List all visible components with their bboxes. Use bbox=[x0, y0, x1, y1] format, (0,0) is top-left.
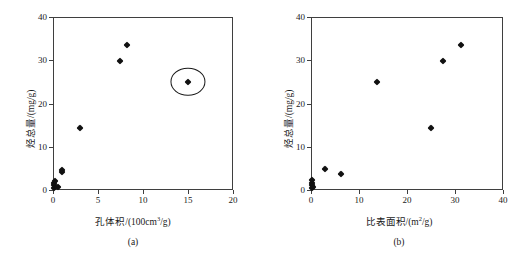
chart-panel-a: 烃总量/(mg/g) 孔体积/(100cm3/g) (a) 0510152001… bbox=[0, 0, 266, 261]
plot-area-b bbox=[311, 17, 503, 190]
y-axis-tick-label: 40 bbox=[281, 12, 305, 22]
x-axis-tick bbox=[143, 190, 144, 194]
x-axis-tick-label: 0 bbox=[309, 195, 314, 205]
x-axis-label-b: 比表面积/(m2/g) bbox=[266, 216, 532, 228]
y-axis-tick bbox=[307, 147, 311, 148]
y-axis-tick bbox=[307, 17, 311, 18]
y-axis-tick-label: 30 bbox=[23, 55, 47, 65]
x-axis-tick-label: 40 bbox=[499, 195, 508, 205]
y-axis-tick-label: 10 bbox=[23, 142, 47, 152]
y-axis-tick-label: 30 bbox=[281, 55, 305, 65]
y-axis-tick bbox=[307, 104, 311, 105]
figure-container: 烃总量/(mg/g) 孔体积/(100cm3/g) (a) 0510152001… bbox=[0, 0, 532, 261]
x-axis-tick bbox=[359, 190, 360, 194]
x-axis-tick bbox=[188, 190, 189, 194]
x-axis-tick bbox=[407, 190, 408, 194]
x-axis-tick-label: 15 bbox=[184, 195, 193, 205]
y-axis-tick-label: 0 bbox=[23, 185, 47, 195]
panel-caption-b: (b) bbox=[266, 236, 532, 248]
y-axis-tick bbox=[49, 104, 53, 105]
y-axis-tick bbox=[307, 60, 311, 61]
x-axis-tick-label: 20 bbox=[403, 195, 412, 205]
x-axis-tick-label: 0 bbox=[51, 195, 56, 205]
y-axis-tick bbox=[49, 60, 53, 61]
chart-panel-b: 烃总量/(mg/g) 比表面积/(m2/g) (b) 0102030400102… bbox=[266, 0, 532, 261]
x-axis-tick-label: 5 bbox=[96, 195, 101, 205]
x-axis-tick-label: 10 bbox=[139, 195, 148, 205]
y-axis-tick bbox=[49, 17, 53, 18]
x-axis-tick bbox=[233, 190, 234, 194]
x-axis-tick-label: 10 bbox=[355, 195, 364, 205]
panel-caption-a: (a) bbox=[0, 236, 266, 248]
x-axis-tick bbox=[98, 190, 99, 194]
x-axis-tick bbox=[455, 190, 456, 194]
x-axis-label-a: 孔体积/(100cm3/g) bbox=[0, 216, 266, 228]
y-axis-tick-label: 10 bbox=[281, 142, 305, 152]
y-axis-tick-label: 0 bbox=[281, 185, 305, 195]
y-axis-tick-label: 20 bbox=[23, 99, 47, 109]
y-axis-tick-label: 40 bbox=[23, 12, 47, 22]
y-axis-tick-label: 20 bbox=[281, 99, 305, 109]
x-axis-tick bbox=[503, 190, 504, 194]
x-axis-tick-label: 30 bbox=[451, 195, 460, 205]
plot-area-a bbox=[53, 17, 233, 190]
y-axis-tick bbox=[49, 147, 53, 148]
x-axis-tick-label: 20 bbox=[229, 195, 238, 205]
